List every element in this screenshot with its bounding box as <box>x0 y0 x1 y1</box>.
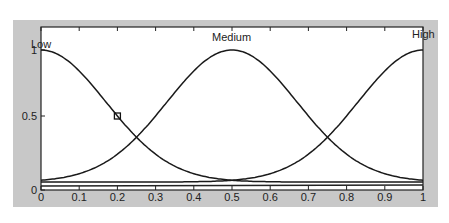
x-tick-label: 0.1 <box>72 191 87 203</box>
x-tick-label: 0.2 <box>110 191 125 203</box>
x-tick-label: 0.8 <box>339 191 354 203</box>
x-tick-label: 0 <box>38 191 44 203</box>
x-tick-label: 1 <box>420 191 426 203</box>
x-tick-label: 0.4 <box>186 191 201 203</box>
x-tick-label: 0.7 <box>301 191 316 203</box>
label-medium: Medium <box>212 31 251 43</box>
y-tick-label: 0 <box>31 184 37 196</box>
y-tick-label: 0.5 <box>22 110 37 122</box>
x-tick-label: 0.9 <box>377 191 392 203</box>
label-high: High <box>412 28 435 40</box>
x-tick-label: 0.3 <box>148 191 163 203</box>
membership-function-plot: 00.10.20.30.40.50.60.70.80.9100.51 Low M… <box>0 0 449 223</box>
x-tick-label: 0.6 <box>263 191 278 203</box>
baseline <box>41 185 423 186</box>
x-tick-label: 0.5 <box>224 191 239 203</box>
label-low: Low <box>31 38 51 50</box>
